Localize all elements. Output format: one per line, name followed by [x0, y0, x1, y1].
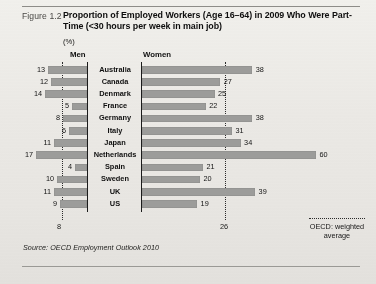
value-label-men-france: 5: [55, 101, 69, 111]
value-label-men-us: 9: [43, 199, 57, 209]
source-note: Source: OECD Employment Outlook 2010: [23, 243, 159, 252]
bar-women-germany: [142, 115, 252, 123]
category-label-netherlands: Netherlands: [88, 150, 142, 160]
category-label-uk: UK: [88, 187, 142, 197]
bar-women-canada: [142, 78, 220, 86]
value-label-women-spain: 21: [206, 162, 214, 172]
value-label-men-canada: 12: [34, 77, 48, 87]
chart-plot-area: Men Women 8 26 13Australia3812Canada2714…: [0, 0, 376, 284]
value-label-men-netherlands: 17: [19, 150, 33, 160]
bar-men-sweden: [57, 176, 87, 184]
value-label-men-germany: 8: [46, 113, 60, 123]
value-label-men-uk: 11: [37, 187, 51, 197]
column-header-women: Women: [143, 50, 171, 59]
bar-men-australia: [48, 66, 87, 74]
bar-men-netherlands: [36, 151, 87, 159]
bar-men-us: [60, 200, 87, 208]
legend-dotted-line-icon: [309, 218, 365, 219]
value-label-men-italy: 6: [52, 126, 66, 136]
legend-label: OECD: weighted average: [303, 222, 371, 241]
table-row: 11Japan34: [0, 138, 376, 150]
value-label-men-denmark: 14: [28, 89, 42, 99]
category-label-japan: Japan: [88, 138, 142, 148]
bar-women-uk: [142, 188, 255, 196]
oecd-reference-value-men: 8: [57, 222, 61, 231]
category-label-denmark: Denmark: [88, 89, 142, 99]
value-label-men-australia: 13: [31, 65, 45, 75]
bar-women-spain: [142, 164, 203, 172]
bar-men-canada: [51, 78, 87, 86]
value-label-men-sweden: 10: [40, 174, 54, 184]
value-label-women-japan: 34: [244, 138, 252, 148]
table-row: 6Italy31: [0, 126, 376, 138]
value-label-women-denmark: 25: [218, 89, 226, 99]
bar-men-denmark: [45, 90, 87, 98]
bar-men-italy: [69, 127, 87, 135]
value-label-women-sweden: 20: [204, 174, 212, 184]
value-label-women-netherlands: 60: [320, 150, 328, 160]
table-row: 11UK39: [0, 187, 376, 199]
value-label-women-australia: 38: [256, 65, 264, 75]
bar-women-denmark: [142, 90, 215, 98]
category-label-germany: Germany: [88, 113, 142, 123]
value-label-women-italy: 31: [235, 126, 243, 136]
category-label-us: US: [88, 199, 142, 209]
column-header-men: Men: [70, 50, 86, 59]
table-row: 12Canada27: [0, 77, 376, 89]
bar-women-france: [142, 103, 206, 111]
category-label-australia: Australia: [88, 65, 142, 75]
bar-men-uk: [54, 188, 87, 196]
table-row: 17Netherlands60: [0, 150, 376, 162]
bar-women-australia: [142, 66, 252, 74]
category-label-italy: Italy: [88, 126, 142, 136]
table-row: 13Australia38: [0, 65, 376, 77]
table-row: 10Sweden20: [0, 174, 376, 186]
bar-men-spain: [75, 164, 87, 172]
bar-women-netherlands: [142, 151, 316, 159]
table-row: 5France22: [0, 101, 376, 113]
bar-men-france: [72, 103, 87, 111]
bar-women-us: [142, 200, 197, 208]
value-label-women-france: 22: [209, 101, 217, 111]
bar-women-italy: [142, 127, 232, 135]
bar-women-japan: [142, 139, 241, 147]
bar-men-japan: [54, 139, 87, 147]
category-label-spain: Spain: [88, 162, 142, 172]
bar-men-germany: [63, 115, 87, 123]
legend: OECD: weighted average: [303, 218, 371, 241]
value-label-men-spain: 4: [58, 162, 72, 172]
value-label-women-germany: 38: [256, 113, 264, 123]
oecd-reference-value-women: 26: [220, 222, 228, 231]
category-label-canada: Canada: [88, 77, 142, 87]
value-label-women-us: 19: [201, 199, 209, 209]
value-label-women-canada: 27: [224, 77, 232, 87]
category-label-france: France: [88, 101, 142, 111]
table-row: 4Spain21: [0, 162, 376, 174]
category-label-sweden: Sweden: [88, 174, 142, 184]
bar-women-sweden: [142, 176, 200, 184]
value-label-men-japan: 11: [37, 138, 51, 148]
figure-page: Figure 1.2 Proportion of Employed Worker…: [0, 0, 376, 284]
table-row: 14Denmark25: [0, 89, 376, 101]
table-row: 9US19: [0, 199, 376, 211]
value-label-women-uk: 39: [259, 187, 267, 197]
table-row: 8Germany38: [0, 113, 376, 125]
